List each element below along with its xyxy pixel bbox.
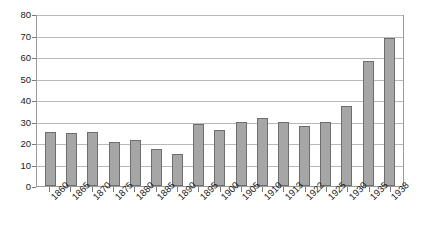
- bar[interactable]: [257, 118, 268, 186]
- bar-slot: [358, 16, 379, 186]
- bar-slot: [146, 16, 167, 186]
- y-axis-tick-label: 50: [20, 75, 31, 85]
- x-axis-label-cell: 1925: [316, 192, 337, 238]
- y-axis-tick-label: 80: [20, 10, 31, 20]
- bar-slot: [167, 16, 188, 186]
- bar[interactable]: [320, 122, 331, 187]
- bar[interactable]: [130, 140, 141, 186]
- y-axis-tick: [32, 37, 36, 38]
- plot-area: [36, 15, 404, 187]
- y-axis-tick: [32, 144, 36, 145]
- y-axis-tick: [32, 58, 36, 59]
- bar-series: [37, 16, 403, 186]
- bar[interactable]: [363, 61, 374, 186]
- bar[interactable]: [236, 122, 247, 187]
- bar-slot: [61, 16, 82, 186]
- x-axis-label-cell: 1905: [231, 192, 252, 238]
- y-axis-tick-label: 40: [20, 96, 31, 106]
- bar-slot: [294, 16, 315, 186]
- x-axis-labels: 1860186518701875188018851890189519001905…: [36, 192, 404, 238]
- bar-slot: [379, 16, 400, 186]
- bar[interactable]: [172, 154, 183, 186]
- x-axis-label-cell: 1922: [295, 192, 316, 238]
- x-axis: 1860186518701875188018851890189519001905…: [36, 187, 404, 238]
- bar-slot: [336, 16, 357, 186]
- x-axis-label-cell: 1885: [145, 192, 166, 238]
- x-axis-label-cell: 1900: [209, 192, 230, 238]
- bar-slot: [40, 16, 61, 186]
- y-axis-tick: [32, 123, 36, 124]
- y-axis-tick-label: 10: [20, 161, 31, 171]
- x-axis-label-cell: 1870: [82, 192, 103, 238]
- x-axis-label-cell: 1860: [39, 192, 60, 238]
- bar-slot: [231, 16, 252, 186]
- bar-slot: [315, 16, 336, 186]
- y-axis-tick: [32, 101, 36, 102]
- bar-slot: [125, 16, 146, 186]
- bar[interactable]: [299, 126, 310, 186]
- bar[interactable]: [193, 124, 204, 186]
- x-axis-label-cell: 1880: [124, 192, 145, 238]
- x-axis-label-cell: 1910: [252, 192, 273, 238]
- bar[interactable]: [151, 149, 162, 186]
- y-axis-tick-label: 30: [20, 118, 31, 128]
- y-axis-tick-label: 20: [20, 139, 31, 149]
- x-axis-label-cell: 1875: [103, 192, 124, 238]
- x-axis-label-cell: 1935: [358, 192, 379, 238]
- bar-chart: 01020304050607080 1860186518701875188018…: [0, 0, 422, 238]
- x-axis-label-cell: 1890: [167, 192, 188, 238]
- bar[interactable]: [341, 106, 352, 186]
- bar-slot: [104, 16, 125, 186]
- y-axis-tick: [32, 166, 36, 167]
- bar-slot: [209, 16, 230, 186]
- bar[interactable]: [45, 132, 56, 186]
- x-axis-label-cell: 1930: [337, 192, 358, 238]
- bar[interactable]: [278, 122, 289, 187]
- bar-slot: [252, 16, 273, 186]
- bar-slot: [273, 16, 294, 186]
- y-axis-tick-label: 0: [26, 182, 31, 192]
- x-axis-label-cell: 1938: [380, 192, 401, 238]
- x-axis-label-cell: 1913: [273, 192, 294, 238]
- bar[interactable]: [214, 130, 225, 186]
- x-axis-label-cell: 1895: [188, 192, 209, 238]
- x-axis-label-cell: 1865: [60, 192, 81, 238]
- bar[interactable]: [87, 132, 98, 186]
- bar[interactable]: [66, 133, 77, 186]
- y-axis-tick-label: 70: [20, 32, 31, 42]
- y-axis-tick: [32, 80, 36, 81]
- bar-slot: [188, 16, 209, 186]
- y-axis-tick: [32, 15, 36, 16]
- bar[interactable]: [109, 142, 120, 186]
- bar[interactable]: [384, 38, 395, 186]
- y-axis-labels: 01020304050607080: [0, 15, 31, 187]
- y-axis-tick-label: 60: [20, 53, 31, 63]
- bar-slot: [82, 16, 103, 186]
